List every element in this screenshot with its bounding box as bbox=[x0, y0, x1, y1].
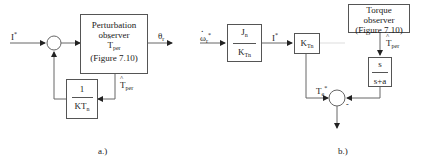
gain-denominator: KTn bbox=[75, 101, 90, 114]
observer-subtitle: observer bbox=[81, 30, 147, 40]
inertia-numerator: Jn bbox=[241, 27, 248, 40]
caption-a: a.) bbox=[98, 146, 107, 156]
torque-constant-block: KTn bbox=[294, 33, 320, 54]
observer-signal: Tper bbox=[81, 40, 147, 53]
torque-observer-subtitle: observer bbox=[349, 15, 409, 25]
torque-estimate-label-b: Tper bbox=[386, 38, 399, 51]
fraction-bar bbox=[72, 97, 93, 98]
torque-ref-label: Te* bbox=[316, 83, 327, 99]
summing-junction-b bbox=[329, 90, 345, 106]
minus-sign: - bbox=[346, 100, 349, 110]
filter-numerator: s bbox=[378, 59, 382, 69]
torque-observer-block: Torque observer (Figure 7.10) bbox=[348, 4, 410, 33]
current-ref-label: I* bbox=[272, 30, 278, 43]
torque-observer-title: Torque bbox=[349, 5, 409, 15]
filter-denominator: s+a bbox=[374, 76, 387, 86]
torque-estimate-label-a: Tper bbox=[120, 80, 133, 93]
inertia-denominator: KTn bbox=[238, 47, 251, 60]
inertia-over-kt-block: Jn KTn bbox=[227, 24, 262, 62]
fraction-bar bbox=[372, 72, 387, 73]
input-current-label: I* bbox=[11, 29, 17, 42]
summing-junction-a bbox=[47, 36, 61, 50]
torque-observer-figure-ref: (Figure 7.10) bbox=[349, 25, 409, 35]
caption-b: b.) bbox=[338, 146, 348, 156]
fraction-bar bbox=[233, 43, 256, 44]
inverse-torque-constant-block: 1 KTn bbox=[66, 79, 98, 119]
accel-ref-label: ωr* bbox=[200, 30, 211, 46]
block-diagram-canvas: I* Perturbation observer Tper (Figure 7.… bbox=[0, 0, 422, 166]
observer-figure-ref: (Figure 7.10) bbox=[81, 53, 147, 63]
highpass-filter-block: s s+a bbox=[368, 57, 392, 87]
gain-numerator: 1 bbox=[80, 84, 85, 94]
output-theta-label: θr bbox=[158, 31, 164, 44]
observer-title: Perturbation bbox=[81, 20, 147, 30]
perturbation-observer-block: Perturbation observer Tper (Figure 7.10) bbox=[80, 14, 148, 74]
